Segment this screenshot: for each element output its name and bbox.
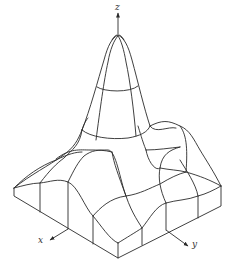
surface-wireframe xyxy=(0,0,228,268)
x-axis-label: x xyxy=(38,236,43,245)
surface-mesh xyxy=(14,35,221,258)
z-axis-label: z xyxy=(115,3,120,12)
y-axis-label: y xyxy=(192,240,197,249)
x-axis xyxy=(50,229,68,240)
surface-plot-figure: z x y xyxy=(0,0,228,268)
